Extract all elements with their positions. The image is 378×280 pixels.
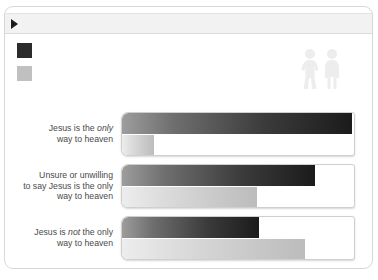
group-label: Jesus is not the onlyway to heaven <box>11 227 121 248</box>
group-label: Unsure or unwillingto say Jesus is the o… <box>11 170 121 202</box>
triangle-right-icon <box>11 19 18 29</box>
bar-value-label <box>259 217 267 238</box>
chart-header <box>5 13 372 34</box>
bar-track <box>121 112 355 156</box>
bar-light-other-books <box>122 239 305 260</box>
chart-legend <box>17 42 282 88</box>
chart-group-jesus-not-only-way: Jesus is not the onlyway to heaven <box>11 216 363 260</box>
chart-group-unsure-unwilling: Unsure or unwillingto say Jesus is the o… <box>11 164 363 208</box>
bar-light-other-books <box>122 135 154 156</box>
two-people-icon <box>295 47 353 93</box>
bar-dark-bible-trustworthy <box>122 217 259 238</box>
bar-light-other-books <box>122 187 257 208</box>
bar-value-label <box>154 135 162 156</box>
chart-figure: Jesus is the onlyway to heaven <box>0 0 378 280</box>
chart-group-jesus-only-way: Jesus is the onlyway to heaven <box>11 112 363 156</box>
legend-item-bible-trustworthy <box>17 42 282 58</box>
legend-swatch-dark-icon <box>17 43 32 58</box>
bar-track <box>121 164 355 208</box>
bar-track <box>121 216 355 260</box>
legend-swatch-light-icon <box>17 66 32 81</box>
bar-dark-bible-trustworthy <box>122 113 352 134</box>
legend-item-other-books <box>17 65 282 81</box>
chart-plot-area: Jesus is the onlyway to heaven <box>11 108 363 264</box>
bar-dark-bible-trustworthy <box>122 165 315 186</box>
group-label: Jesus is the onlyway to heaven <box>11 123 121 144</box>
